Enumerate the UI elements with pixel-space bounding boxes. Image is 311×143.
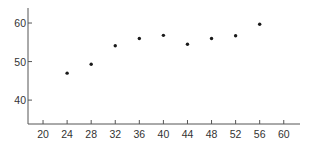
x-tick: 24 [61, 120, 73, 140]
x-tick: 32 [109, 120, 121, 140]
x-tick: 56 [254, 120, 266, 140]
x-tick: 48 [206, 120, 218, 140]
x-tick-label: 32 [109, 128, 121, 140]
x-tick-label: 52 [230, 128, 242, 140]
data-point [234, 34, 237, 37]
x-tick: 20 [37, 120, 49, 140]
x-tick-label: 44 [182, 128, 194, 140]
x-tick: 60 [278, 120, 290, 140]
data-points [65, 22, 261, 74]
y-tick: 50 [14, 56, 32, 68]
x-axis-ticks: 2024283236404448525660 [37, 120, 290, 140]
x-tick: 36 [133, 120, 145, 140]
data-point [114, 44, 117, 47]
y-tick-label: 60 [14, 17, 26, 29]
data-point [210, 37, 213, 40]
data-point [186, 43, 189, 46]
x-tick-label: 36 [133, 128, 145, 140]
x-tick-label: 56 [254, 128, 266, 140]
scatter-chart: 2024283236404448525660 405060 [0, 0, 311, 143]
x-tick-label: 40 [158, 128, 170, 140]
x-tick: 28 [85, 120, 97, 140]
x-tick: 44 [182, 120, 194, 140]
x-tick-label: 60 [278, 128, 290, 140]
x-tick-label: 24 [61, 128, 73, 140]
y-tick-label: 50 [14, 56, 26, 68]
x-tick-label: 20 [37, 128, 49, 140]
y-tick-label: 40 [14, 94, 26, 106]
y-axis-ticks: 405060 [14, 17, 32, 106]
data-point [162, 34, 165, 37]
data-point [138, 37, 141, 40]
x-tick-label: 28 [85, 128, 97, 140]
data-point [258, 22, 261, 25]
data-point [65, 71, 68, 74]
data-point [89, 63, 92, 66]
x-tick: 52 [230, 120, 242, 140]
x-tick: 40 [158, 120, 170, 140]
y-tick: 60 [14, 17, 32, 29]
y-tick: 40 [14, 94, 32, 106]
x-tick-label: 48 [206, 128, 218, 140]
